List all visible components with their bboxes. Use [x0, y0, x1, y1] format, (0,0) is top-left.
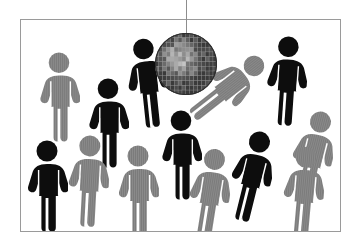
- person-figure: [38, 52, 80, 142]
- person-figure: [26, 140, 68, 231]
- person-figure: [219, 124, 283, 227]
- person-figure: [278, 144, 328, 231]
- person-figure: [65, 132, 112, 230]
- crowd-group: [21, 20, 340, 231]
- illustration-canvas: [0, 0, 362, 248]
- person-figure: [117, 145, 159, 231]
